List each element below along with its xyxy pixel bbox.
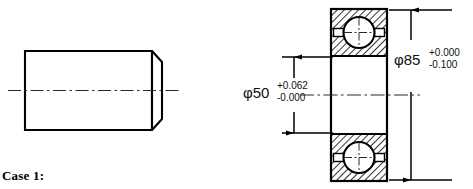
bore-upper-tolerance: +0.062: [277, 80, 308, 92]
bore-lower-tolerance: -0.000: [277, 92, 308, 104]
technical-drawing-canvas: [0, 0, 473, 189]
outer-lower-tolerance: -0.100: [429, 59, 460, 71]
bore-tolerance-stack: +0.062 -0.000: [277, 80, 308, 103]
bearing-lower-race: [331, 134, 387, 181]
outer-upper-tolerance: +0.000: [429, 47, 460, 59]
bearing-upper-race: [331, 9, 387, 56]
drawing-sheet: φ50 +0.062 -0.000 φ85 +0.000 -0.100 Case…: [0, 0, 473, 189]
bore-dimension-value: φ50: [243, 84, 269, 101]
outer-dimension-value: φ85: [394, 51, 420, 68]
case-label: Case 1:: [2, 168, 44, 184]
outer-tolerance-stack: +0.000 -0.100: [429, 47, 460, 70]
